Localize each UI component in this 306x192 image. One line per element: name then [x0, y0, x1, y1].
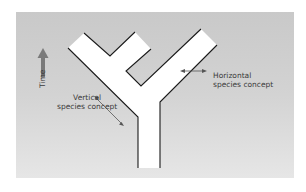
horizontal-species-concept-label: Horizontal species concept: [213, 71, 273, 89]
horizontal-concept-arrow-icon: [180, 69, 207, 73]
vertical-label-line2: species concept: [57, 102, 117, 111]
vertical-label-line1: Vertical: [57, 93, 117, 102]
phylogeny-diagram: [0, 0, 306, 192]
horizontal-label-line2: species concept: [213, 80, 273, 89]
vertical-species-concept-label: Vertical species concept: [57, 93, 117, 111]
time-axis-label: Time: [38, 70, 47, 88]
horizontal-label-line1: Horizontal: [213, 71, 273, 80]
